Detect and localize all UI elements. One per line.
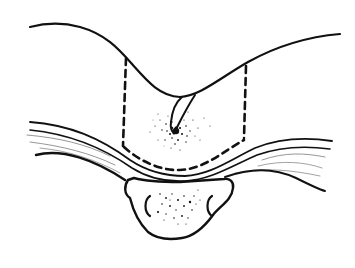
diagram-canvas: cross-section illustration: skin surface… bbox=[0, 0, 355, 268]
bone bbox=[125, 178, 233, 239]
skin-surface bbox=[30, 24, 340, 97]
illustration bbox=[0, 0, 355, 268]
tissue-layers bbox=[27, 122, 332, 191]
sinus-tract bbox=[171, 95, 195, 133]
